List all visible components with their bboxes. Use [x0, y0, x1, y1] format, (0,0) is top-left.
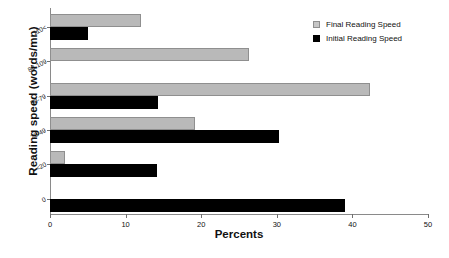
legend-label-final: Final Reading Speed — [326, 20, 401, 29]
x-axis-tick-mark — [50, 214, 51, 218]
x-axis-tick-mark — [126, 214, 127, 218]
x-axis-tick-mark — [201, 214, 202, 218]
legend-label-initial: Initial Reading Speed — [326, 34, 402, 43]
bar-initial-reading-speed — [50, 199, 345, 212]
bar-group: 0 — [50, 186, 428, 212]
bar-initial-reading-speed — [50, 27, 88, 40]
bar-initial-reading-speed — [50, 130, 279, 143]
x-axis-title: Percents — [50, 228, 428, 240]
bar-final-reading-speed — [50, 14, 141, 27]
bar-chart: Reading speed (words/mn) 110<80-10950-79… — [0, 0, 449, 258]
bar-final-reading-speed — [50, 83, 370, 96]
bar-group: <20 — [50, 151, 428, 177]
bar-final-reading-speed — [50, 48, 249, 61]
x-axis-tick-mark — [352, 214, 353, 218]
legend-swatch-final-icon — [313, 21, 320, 28]
chart-legend: Final Reading Speed Initial Reading Spee… — [313, 18, 402, 46]
legend-swatch-initial-icon — [313, 35, 320, 42]
bar-final-reading-speed — [50, 117, 195, 130]
bar-group: 50-79 — [50, 83, 428, 109]
bar-initial-reading-speed — [50, 96, 158, 109]
bar-group: 20-49 — [50, 117, 428, 143]
y-axis-tick-label: 0 — [41, 195, 48, 204]
x-axis-line — [50, 214, 428, 215]
legend-item-initial: Initial Reading Speed — [313, 32, 402, 44]
bar-initial-reading-speed — [50, 164, 157, 177]
bar-group: 80-109 — [50, 48, 428, 74]
bar-final-reading-speed — [50, 151, 65, 164]
y-axis-tick-mark — [47, 61, 50, 62]
x-axis-tick-mark — [428, 214, 429, 218]
x-axis-tick-mark — [277, 214, 278, 218]
legend-item-final: Final Reading Speed — [313, 18, 402, 30]
